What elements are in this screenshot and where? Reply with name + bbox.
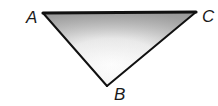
edge-ca xyxy=(43,12,196,13)
vertex-label-b: B xyxy=(114,85,125,104)
vertex-label-a: A xyxy=(25,8,37,27)
triangle-diagram: A C B xyxy=(0,0,218,106)
vertex-label-c: C xyxy=(202,7,215,26)
